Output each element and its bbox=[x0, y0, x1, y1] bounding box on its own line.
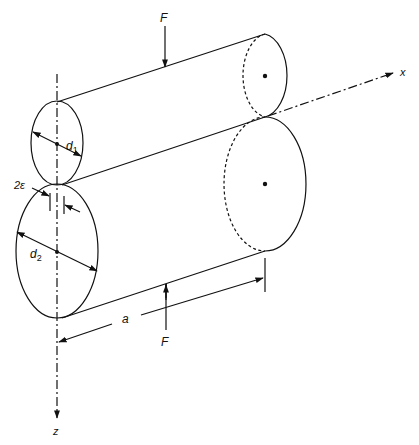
contact-width-label: 2ε bbox=[13, 179, 25, 191]
length-a-line-left bbox=[59, 324, 112, 342]
small-cylinder-far-face-visible bbox=[265, 34, 287, 117]
large-far-center-dot bbox=[263, 182, 267, 186]
small-near-center-dot bbox=[55, 142, 59, 146]
contact-width-arrow-right bbox=[65, 205, 80, 212]
cylinder-contact-diagram: F F d1 d2 2ε a x z bbox=[0, 0, 419, 445]
force-bottom-label: F bbox=[161, 335, 169, 349]
d2-label-sub: 2 bbox=[37, 253, 42, 263]
length-a-line-right bbox=[141, 278, 263, 315]
small-cylinder-top-edge bbox=[57, 34, 265, 102]
small-cylinder-far-face-hidden bbox=[243, 34, 265, 117]
small-cylinder-bottom-edge bbox=[62, 117, 265, 185]
d2-label: d2 bbox=[30, 247, 42, 263]
large-cylinder-far-face-visible bbox=[265, 117, 306, 251]
small-far-center-dot bbox=[263, 74, 267, 78]
d1-label-sub: 1 bbox=[73, 145, 78, 155]
d1-label: d1 bbox=[66, 139, 78, 155]
x-axis-label: x bbox=[399, 66, 406, 78]
force-top-label: F bbox=[160, 11, 168, 25]
large-cylinder-far-face-hidden bbox=[224, 117, 265, 251]
large-near-center-dot bbox=[55, 250, 59, 254]
length-a-label: a bbox=[122, 312, 129, 326]
z-axis-label: z bbox=[52, 425, 59, 437]
